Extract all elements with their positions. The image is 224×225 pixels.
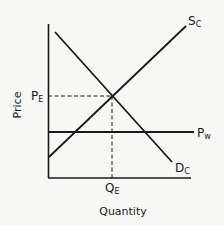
supply-label: SC [188,14,202,29]
eq-quantity-label: QE [105,181,120,196]
eq-price-label: PE [31,89,43,104]
x-axis-title: Quantity [99,205,147,218]
world-price-label: Pw [197,126,211,141]
demand-curve [55,32,172,162]
supply-demand-diagram: SC DC Pw PE QE Quantity Price [0,0,224,225]
y-axis-title: Price [11,91,24,118]
demand-label: DC [175,161,190,176]
supply-curve [49,26,186,157]
